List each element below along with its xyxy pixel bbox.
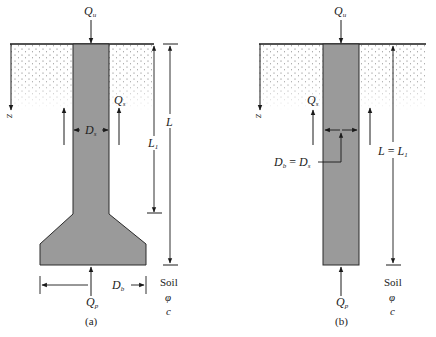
depth-axis-label-b: z <box>254 113 266 119</box>
base-diameter-label-a: Db <box>111 278 125 293</box>
caption-a: (a) <box>85 315 98 328</box>
shaft-length-label-a: L1 <box>147 136 158 151</box>
figure-a: Qu z Qs Ds L1 L Qp Db Soil φ <box>5 4 178 328</box>
soil-phi-a: φ <box>165 291 171 303</box>
soil-label-b: Soil <box>384 276 402 288</box>
top-load-label-a: Qu <box>84 4 97 19</box>
figure-b: Qu z Qs Db = Ds L = L1 Qp Soil φ c (b) <box>254 4 426 328</box>
soil-phi-b: φ <box>389 291 395 303</box>
depth-axis-label-a: z <box>5 113 17 119</box>
soil-label-a: Soil <box>160 276 178 288</box>
point-load-label-b: Qp <box>336 295 349 310</box>
diameter-equation-label-b: Db = Ds <box>273 155 311 170</box>
top-load-label-b: Qu <box>334 4 347 19</box>
length-equation-label-b: L = L1 <box>377 144 408 159</box>
caption-b: (b) <box>335 315 348 328</box>
soil-c-b: c <box>390 305 395 317</box>
total-length-label-a: L <box>165 115 173 129</box>
pile-diagram: Qu z Qs Ds L1 L Qp Db Soil φ <box>0 0 436 337</box>
soil-c-a: c <box>166 305 171 317</box>
point-load-label-a: Qp <box>86 295 99 310</box>
